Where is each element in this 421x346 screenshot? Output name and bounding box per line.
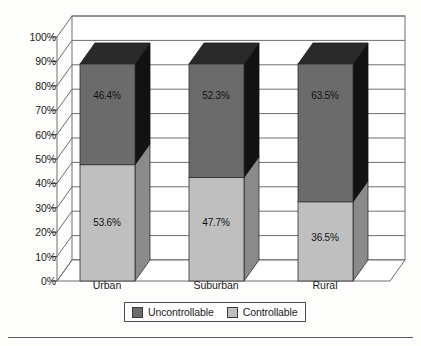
chart-screenshot: 100% 90% 80% 70% 60% 50% 40% 30% 20% 10%… — [0, 0, 421, 346]
y-tick-80: 80% — [10, 81, 56, 92]
legend-swatch-controllable-icon — [227, 307, 238, 318]
y-axis-labels: 100% 90% 80% 70% 60% 50% 40% 30% 20% 10%… — [4, 0, 56, 300]
bar-segment-rural-uncontrollable[interactable] — [298, 43, 368, 202]
chart-left-wall — [57, 16, 72, 281]
bar-segment-suburban-uncontrollable[interactable] — [189, 43, 259, 178]
bar-segment-urban-uncontrollable[interactable] — [80, 43, 150, 165]
y-tick-40: 40% — [10, 178, 56, 189]
legend-swatch-uncontrollable-icon — [132, 307, 143, 318]
bar-group-suburban[interactable] — [189, 43, 259, 281]
chart-legend: Uncontrollable Controllable — [124, 302, 306, 322]
x-axis-category-labels: Urban Suburban Rural — [0, 279, 421, 297]
y-tick-90: 90% — [10, 56, 56, 67]
y-tick-70: 70% — [10, 105, 56, 116]
bar-group-urban[interactable] — [80, 43, 150, 281]
chart-plot-area: 100% 90% 80% 70% 60% 50% 40% 30% 20% 10%… — [0, 0, 421, 300]
y-tick-30: 30% — [10, 203, 56, 214]
y-tick-50: 50% — [10, 154, 56, 165]
category-label-urban: Urban — [93, 279, 121, 291]
y-tick-10: 10% — [10, 251, 56, 262]
category-label-suburban: Suburban — [193, 279, 238, 291]
y-tick-100: 100% — [10, 32, 56, 43]
legend-entry-controllable[interactable]: Controllable — [227, 306, 298, 318]
y-tick-60: 60% — [10, 129, 56, 140]
legend-label-controllable: Controllable — [243, 306, 298, 318]
bottom-divider — [8, 337, 413, 338]
legend-entry-uncontrollable[interactable]: Uncontrollable — [132, 306, 214, 318]
y-tick-20: 20% — [10, 227, 56, 238]
chart-graphic — [0, 0, 421, 300]
category-label-rural: Rural — [313, 279, 338, 291]
legend-label-uncontrollable: Uncontrollable — [148, 306, 214, 318]
bar-group-rural[interactable] — [298, 43, 368, 281]
